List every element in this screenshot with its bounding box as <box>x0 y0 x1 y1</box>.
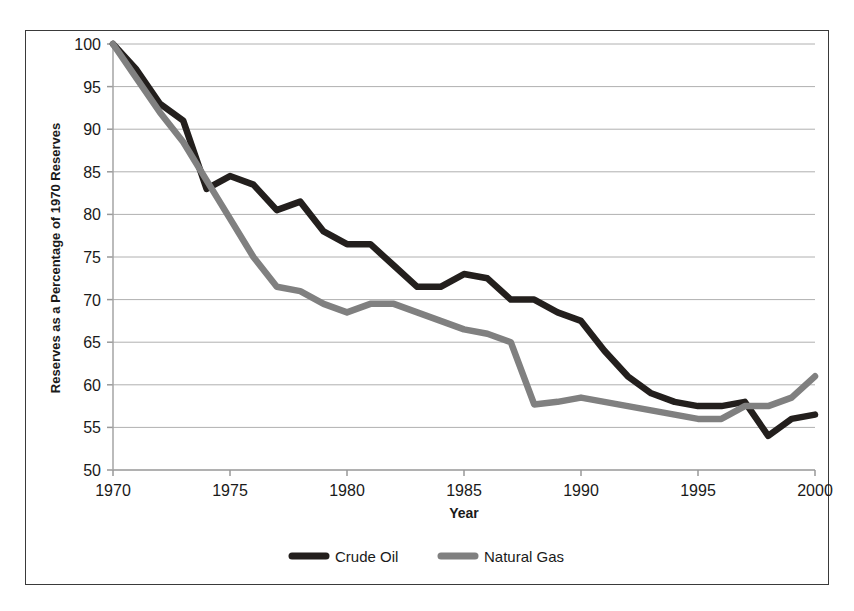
series-line-crude-oil <box>113 44 815 436</box>
y-tick-label: 100 <box>74 36 101 53</box>
data-series-group <box>113 44 815 436</box>
y-tick-label: 60 <box>83 377 101 394</box>
y-tick-label: 80 <box>83 206 101 223</box>
y-tick-label: 70 <box>83 292 101 309</box>
x-tick-label: 1985 <box>446 482 482 499</box>
x-tick-label: 1995 <box>680 482 716 499</box>
y-tick-label: 65 <box>83 334 101 351</box>
y-axis-title: Reserves as a Percentage of 1970 Reserve… <box>48 123 63 393</box>
chart-legend: Crude OilNatural Gas <box>292 548 564 565</box>
y-tick-label: 95 <box>83 79 101 96</box>
x-tick-label: 1975 <box>212 482 248 499</box>
chart-figure: Reserves as a Percentage of 1970 Reserve… <box>0 0 854 611</box>
legend-label: Crude Oil <box>335 548 398 565</box>
series-line-natural-gas <box>113 44 815 419</box>
x-tick-label: 1970 <box>95 482 131 499</box>
x-axis-title: Year <box>449 505 479 521</box>
y-tick-label: 50 <box>83 462 101 479</box>
y-tick-label: 75 <box>83 249 101 266</box>
x-tick-label: 1990 <box>563 482 599 499</box>
x-tick-label: 2000 <box>797 482 833 499</box>
legend-label: Natural Gas <box>484 548 564 565</box>
x-tick-label: 1980 <box>329 482 365 499</box>
x-axis-ticks: 1970197519801985199019952000 <box>95 470 833 499</box>
reserves-line-chart: Reserves as a Percentage of 1970 Reserve… <box>0 0 854 611</box>
y-tick-label: 85 <box>83 164 101 181</box>
y-axis-ticks: 50556065707580859095100 <box>74 36 113 479</box>
y-tick-label: 90 <box>83 121 101 138</box>
y-tick-label: 55 <box>83 419 101 436</box>
